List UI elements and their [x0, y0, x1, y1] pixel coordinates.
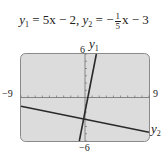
- calculator-screen: [20, 53, 150, 142]
- title-y2-tail: x − 3: [122, 12, 149, 27]
- y2-curve-label: y2: [151, 124, 161, 139]
- y1-curve-label: y1: [89, 39, 99, 54]
- xmin-tick-label: −9: [2, 89, 13, 99]
- title-y1-rhs: = 5x − 2,: [29, 12, 83, 27]
- fraction-denominator: 5: [115, 22, 122, 31]
- title-y2-eq: = −: [92, 12, 113, 27]
- xmax-tick-label: 9: [153, 89, 158, 99]
- chart-title: y1 = 5x − 2, y2 = −15x − 3: [0, 12, 168, 31]
- ymin-tick-label: −6: [79, 143, 90, 153]
- title-fraction: 15: [115, 12, 122, 31]
